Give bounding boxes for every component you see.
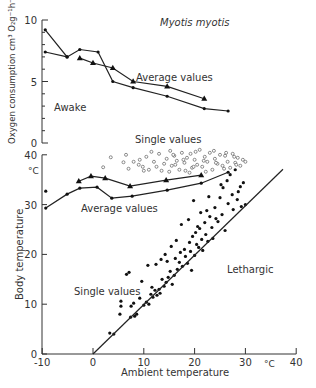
bottom-y-tick-label: 40 [24,150,37,161]
bottom-data-point [224,154,227,157]
bottom-data-point [192,199,195,202]
bottom-data-point [214,161,217,164]
bottom-data-point [223,167,226,170]
bottom-data-point [164,253,167,256]
bottom-data-point [213,206,216,209]
bottom-series-line [79,175,201,186]
bottom-data-point [146,264,149,267]
bottom-data-point [201,249,204,252]
bottom-data-point [229,166,232,169]
bottom-data-point [198,172,204,177]
bottom-data-point [219,183,222,186]
bottom-data-point [147,303,150,306]
bottom-data-point [118,313,121,316]
bottom-data-point [125,153,128,156]
x-tick-label: 0 [90,357,96,368]
bottom-data-point [180,151,183,154]
bottom-data-point [202,159,205,162]
bottom-data-point [170,245,173,248]
bottom-data-point [167,276,170,279]
top-data-point [44,50,47,53]
bottom-data-point [199,211,202,214]
bottom-data-point [108,331,111,334]
lethargic-label: Lethargic [227,264,274,275]
bottom-data-point [127,271,130,274]
bottom-data-point [183,248,186,251]
bottom-data-point [44,190,47,193]
bottom-data-point [110,197,113,200]
bottom-data-point [219,153,222,156]
chart-svg: 0510 010203040-10010203040 Myotis myotis… [0,0,316,388]
bottom-y-axis-label: Body temperature [14,209,25,300]
bottom-data-point [150,286,153,289]
bottom-data-point [138,297,141,300]
bottom-data-point [227,171,230,174]
top-y-tick-label: 5 [31,77,37,88]
bottom-data-point [158,292,161,295]
bottom-data-point [180,223,183,226]
bottom-data-point [190,269,193,272]
bottom-data-point [239,164,242,167]
bottom-data-point [205,209,208,212]
bottom-data-point [214,217,217,220]
bottom-data-point [226,179,229,182]
bottom-data-point [44,206,47,209]
bottom-data-point [232,208,235,211]
single-values-lethargic-label: Single values [74,286,140,297]
bottom-data-point [216,220,219,223]
bottom-data-point [227,202,230,205]
bottom-data-point [142,169,145,172]
bottom-data-point [204,170,207,173]
bottom-data-point [132,302,135,305]
bottom-data-point [196,163,199,166]
bottom-data-point [175,159,178,162]
top-data-point [132,86,135,89]
bottom-data-point [234,168,237,171]
bottom-data-point [183,161,186,164]
bottom-data-point [200,182,203,185]
bottom-data-point [170,164,173,167]
bottom-data-point [231,152,234,155]
bottom-data-point [194,231,197,234]
bottom-data-point [223,229,226,232]
bottom-data-point [240,205,243,208]
bottom-data-point [155,294,158,297]
bottom-data-point [203,155,206,158]
bottom-data-point [152,160,155,163]
bottom-y-tick-label: 10 [24,299,37,310]
bottom-data-point [169,149,172,152]
bottom-data-point [131,195,134,198]
bottom-plot-series [44,148,283,354]
bottom-data-point [178,261,181,264]
bottom-data-point [235,163,238,166]
bottom-data-point [160,169,163,172]
bottom-data-point [201,165,204,168]
bottom-data-point [88,173,94,178]
bottom-data-point [138,158,141,161]
bottom-data-point [242,181,245,184]
bottom-data-point [196,225,199,228]
x-axis-label: Ambient temperature [121,367,229,378]
bottom-data-point [192,165,195,168]
x-unit-label: °C [264,359,275,369]
bottom-data-point [236,156,239,159]
bottom-data-point [141,165,144,168]
bottom-data-point [145,155,148,158]
bottom-data-point [150,150,153,153]
top-data-point [166,95,169,98]
bottom-data-point [179,251,182,254]
bottom-data-point [132,160,135,163]
bottom-data-point [65,193,68,196]
bottom-data-point [237,190,240,193]
bottom-data-point [109,156,112,159]
bottom-y-tick-label: 20 [24,249,37,260]
bottom-data-point [125,273,128,276]
bottom-data-point [166,260,169,263]
bottom-data-point [236,198,239,201]
top-axes: 0510 [24,15,48,149]
bottom-data-point [211,168,214,171]
bottom-data-point [189,250,192,253]
bottom-data-point [137,163,140,166]
top-y-axis-label: Oxygen consumption cm³ O₂g⁻¹h⁻¹ [7,0,17,144]
bottom-data-point [191,235,194,238]
